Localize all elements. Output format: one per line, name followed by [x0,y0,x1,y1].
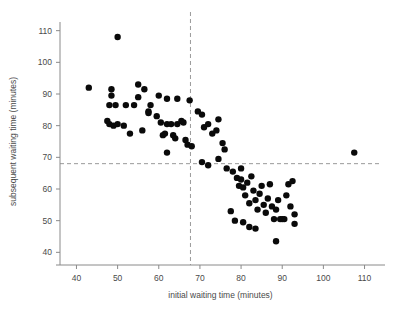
data-point [267,181,273,187]
x-axis-title: initial waiting time (minutes) [168,290,273,300]
x-tick-label: 110 [358,273,372,283]
data-point [199,159,205,165]
x-tick-label: 50 [113,273,123,283]
data-point [123,102,129,108]
data-point [351,149,357,155]
data-point [174,96,180,102]
data-point [145,110,151,116]
x-tick-label: 80 [236,273,246,283]
data-points-group [86,34,358,245]
data-point [106,102,112,108]
y-tick-label: 100 [38,57,52,67]
data-point [242,192,248,198]
data-point [215,156,221,162]
data-point [273,238,279,244]
data-point [135,81,141,87]
data-point [121,122,127,128]
data-point [244,179,250,185]
data-point [250,187,256,193]
data-point [287,203,293,209]
y-tick-label: 50 [43,216,53,226]
x-tick-label: 70 [195,273,205,283]
data-point [289,178,295,184]
data-point [283,192,289,198]
data-point [127,130,133,136]
data-point [172,135,178,141]
data-point [112,102,118,108]
data-point [240,219,246,225]
data-point [256,191,262,197]
data-point [139,127,145,133]
data-point [252,225,258,231]
scatter-plot-figure: 405060708090100110405060708090100110init… [0,0,395,309]
data-point [219,140,225,146]
data-point [291,221,297,227]
data-point [188,143,194,149]
data-point [131,102,137,108]
data-point [168,121,174,127]
y-tick-label: 70 [43,152,53,162]
data-point [205,162,211,168]
data-point [258,183,264,189]
data-point [162,130,168,136]
data-point [213,127,219,133]
data-point [108,86,114,92]
data-point [221,146,227,152]
data-point [86,84,92,90]
x-tick-label: 90 [277,273,287,283]
y-axis-title: subsequent waiting time (minutes) [8,77,18,206]
data-point [205,121,211,127]
data-point [156,92,162,98]
y-tick-label: 40 [43,247,53,257]
data-point [228,208,234,214]
data-point [232,217,238,223]
data-point [238,176,244,182]
y-tick-label: 80 [43,121,53,131]
data-point [114,121,120,127]
data-point [238,165,244,171]
plot-canvas: 405060708090100110405060708090100110init… [0,0,395,309]
data-point [263,210,269,216]
data-point [164,96,170,102]
data-point [199,111,205,117]
x-tick-label: 40 [72,273,82,283]
data-point [223,165,229,171]
data-point [275,197,281,203]
data-point [281,216,287,222]
y-tick-label: 110 [38,26,52,36]
data-point [180,119,186,125]
data-point [114,34,120,40]
data-point [141,86,147,92]
data-point [108,92,114,98]
data-point [154,113,160,119]
data-point [291,211,297,217]
y-tick-label: 60 [43,184,53,194]
data-point [215,116,221,122]
x-tick-label: 60 [154,273,164,283]
data-point [273,206,279,212]
data-point [246,224,252,230]
data-point [164,149,170,155]
data-point [186,97,192,103]
data-point [261,202,267,208]
data-point [254,206,260,212]
x-tick-label: 100 [316,273,330,283]
data-point [252,197,258,203]
data-point [158,119,164,125]
data-point [246,200,252,206]
data-point [271,216,277,222]
data-point [230,168,236,174]
y-tick-label: 90 [43,89,53,99]
data-point [135,94,141,100]
data-point [265,195,271,201]
data-point [248,173,254,179]
data-point [147,102,153,108]
